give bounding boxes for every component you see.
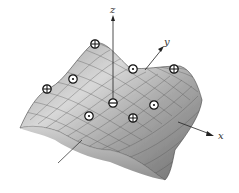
surface-plot: z y x	[0, 0, 239, 193]
maximum-marker-icon	[43, 85, 51, 93]
minimum-marker-icon	[109, 99, 117, 107]
maximum-marker-icon	[170, 65, 178, 73]
y-axis-label: y	[163, 36, 170, 47]
saddle-marker-icon	[85, 112, 93, 120]
surface-mesh	[20, 43, 204, 180]
z-axis-label: z	[109, 4, 116, 15]
saddle-marker-icon	[150, 101, 158, 109]
saddle-marker-icon	[69, 75, 77, 83]
z-axis-arrow-icon	[111, 15, 115, 21]
maximum-marker-icon	[129, 114, 137, 122]
maximum-marker-icon	[91, 40, 99, 48]
y-axis: y	[145, 36, 170, 70]
surface-diagram: z y x	[0, 0, 239, 193]
x-axis-arrow-icon	[206, 131, 214, 136]
saddle-marker-icon	[129, 65, 137, 73]
x-axis-label: x	[218, 130, 224, 141]
